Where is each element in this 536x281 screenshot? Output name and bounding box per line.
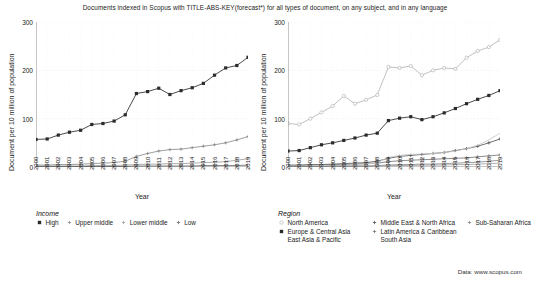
data-point — [409, 115, 412, 118]
x-tick-label: 2013 — [430, 157, 436, 170]
data-point — [431, 115, 434, 118]
legend-item[interactable]: Latin America & Caribbean — [371, 228, 459, 235]
legend-marker-icon — [120, 219, 127, 226]
x-tick-label: 2001 — [44, 157, 50, 170]
legend-item[interactable]: Lower middle — [120, 219, 168, 226]
chart-panel-region: Document per 10 million of population 01… — [258, 18, 524, 210]
data-point — [342, 94, 345, 97]
data-point — [376, 93, 379, 96]
x-tick-label: 2014 — [441, 157, 447, 170]
legend-title-income: Income — [36, 210, 203, 217]
legend-item-label: Low — [184, 219, 196, 226]
data-point — [320, 143, 323, 146]
plot-canvas-income: 0100200300200020012002200320042005200620… — [36, 22, 248, 167]
chart-svg — [288, 22, 500, 167]
plot-canvas-region: 0100200300200020012002200320042005200620… — [288, 22, 500, 167]
data-point — [309, 146, 312, 149]
legend-title-region: Region — [278, 210, 536, 217]
data-point — [224, 66, 227, 69]
data-point — [454, 107, 457, 110]
legend-item-label: Latin America & Caribbean — [381, 228, 457, 235]
data-point — [191, 86, 194, 89]
legend-item-label: South Asia — [381, 236, 412, 243]
legend-rows-region: North AmericaMiddle East & North AfricaS… — [278, 219, 536, 243]
x-tick-label: 2009 — [133, 157, 139, 170]
legend-item-label: Europe & Central Asia — [288, 228, 351, 235]
legend-item-label: Middle East & North Africa — [381, 219, 456, 226]
x-axis-label-right: Year — [288, 193, 500, 200]
x-tick-label: 2015 — [200, 157, 206, 170]
data-point — [179, 89, 182, 92]
legend-item-label: Upper middle — [75, 219, 113, 226]
data-point — [365, 98, 368, 101]
x-tick-label: 2006 — [100, 157, 106, 170]
y-tick-label: 200 — [274, 67, 285, 74]
legend-item[interactable]: High — [36, 219, 59, 226]
x-tick-label: 2016 — [464, 157, 470, 170]
data-point — [443, 111, 446, 114]
data-point — [398, 66, 401, 69]
plot-area-region: 0100200300200020012002200320042005200620… — [288, 22, 500, 167]
data-point — [309, 117, 312, 120]
data-point — [398, 117, 401, 120]
x-tick-label: 2010 — [397, 157, 403, 170]
x-tick-label: 2009 — [385, 157, 391, 170]
data-point — [365, 134, 368, 137]
legend-row-region: East Asia & PacificSouth Asia — [278, 236, 536, 243]
x-tick-label: 2006 — [352, 157, 358, 170]
plot-area-income: 0100200300200020012002200320042005200620… — [36, 22, 248, 167]
data-point — [57, 134, 60, 137]
chart-svg — [36, 22, 248, 167]
legend-marker-icon — [175, 219, 182, 226]
x-tick-label: 2002 — [55, 157, 61, 170]
data-point — [298, 123, 301, 126]
x-tick-label: 2014 — [189, 157, 195, 170]
legend-item-label: Lower middle — [130, 219, 168, 226]
x-tick-label: 2003 — [66, 157, 72, 170]
y-tick-label: 100 — [274, 115, 285, 122]
legend-item[interactable]: Low — [175, 219, 196, 226]
y-axis-label-right: Document per 10 million of population — [260, 38, 267, 186]
x-tick-label: 2012 — [419, 157, 425, 170]
legend-item[interactable]: Sub-Saharan Africa — [466, 219, 531, 226]
data-point — [353, 102, 356, 105]
y-tick-label: 100 — [22, 115, 33, 122]
legend-region: Region North AmericaMiddle East & North … — [278, 210, 536, 245]
data-point — [298, 149, 301, 152]
legend-item-label: High — [46, 219, 59, 226]
x-tick-label: 2002 — [307, 157, 313, 170]
legend-item[interactable]: South Asia — [371, 236, 459, 243]
legend-marker-icon — [466, 219, 473, 226]
legend-item-label: East Asia & Pacific — [288, 236, 341, 243]
source-note: Data: www.scopus.com — [458, 268, 522, 275]
data-point — [465, 56, 468, 59]
legend-marker-icon — [66, 219, 73, 226]
x-tick-label: 2008 — [122, 157, 128, 170]
legend-item[interactable]: Middle East & North Africa — [371, 219, 459, 226]
legend-marker-icon — [371, 236, 378, 243]
legend-item[interactable]: Upper middle — [66, 219, 114, 226]
legend-marker-icon — [278, 219, 285, 226]
y-axis-label-left: Document per 10 million of population — [8, 38, 15, 186]
x-tick-label: 2016 — [212, 157, 218, 170]
chart-panel-income: Document per 10 million of population 01… — [6, 18, 258, 210]
data-point — [431, 69, 434, 72]
legend-item[interactable]: North America — [278, 219, 364, 226]
x-tick-label: 2007 — [111, 157, 117, 170]
x-tick-label: 2013 — [178, 157, 184, 170]
x-tick-label: 2017 — [475, 157, 481, 170]
x-axis-label-left: Year — [36, 193, 248, 200]
data-point — [487, 46, 490, 49]
legend-marker-icon — [278, 236, 285, 243]
x-tick-label: 2019 — [497, 157, 503, 170]
legend-item[interactable]: East Asia & Pacific — [278, 236, 364, 243]
data-point — [376, 132, 379, 135]
x-tick-label: 2010 — [145, 157, 151, 170]
x-tick-label: 2011 — [408, 157, 414, 170]
x-tick-label: 2018 — [486, 157, 492, 170]
legend-marker-icon — [371, 219, 378, 226]
data-point — [342, 139, 345, 142]
x-tick-label: 2000 — [33, 157, 39, 170]
legend-item[interactable]: Europe & Central Asia — [278, 228, 364, 235]
